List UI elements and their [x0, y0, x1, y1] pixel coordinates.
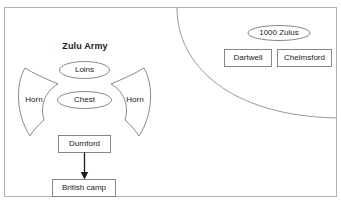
diagram-canvas: Zulu Army Loins Chest Horn Horn Durnford…: [0, 0, 341, 204]
loins-ellipse: [60, 62, 110, 79]
durnford-box: [59, 136, 111, 153]
chest-ellipse: [58, 92, 112, 109]
diagram-vector-layer: [0, 0, 341, 204]
british-camp-box: [53, 180, 116, 197]
dartwell-box: [225, 50, 272, 67]
zulus-count-ellipse: [248, 26, 310, 41]
chelmsford-box: [278, 50, 332, 67]
